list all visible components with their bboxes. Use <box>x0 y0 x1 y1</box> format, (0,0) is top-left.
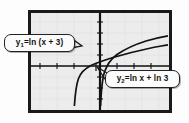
graph-figure: y1 = ln (x + 3) y2 = ln x + ln 3 <box>0 0 189 123</box>
callout-y2-expression: ln x + ln 3 <box>130 75 169 83</box>
callout-y2-subscript: 2 <box>121 78 124 84</box>
callout-label-y1[interactable]: y1 = ln (x + 3) <box>4 34 75 52</box>
graph-canvas <box>31 13 169 110</box>
callout-y1-expression: ln (x + 3) <box>29 39 63 47</box>
callout-y1-subscript: 1 <box>20 42 23 48</box>
callout-label-y2[interactable]: y2 = ln x + ln 3 <box>105 70 180 88</box>
graph-plot-frame <box>28 10 172 113</box>
